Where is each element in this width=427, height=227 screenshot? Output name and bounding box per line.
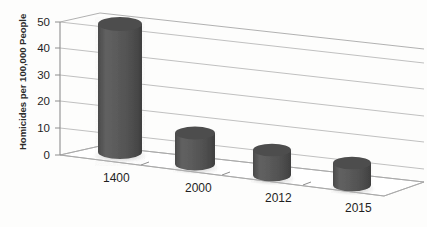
y-tick-label-20: 20 — [37, 95, 50, 107]
y-tick-label-0: 0 — [44, 149, 50, 161]
y-tick-label-50: 50 — [37, 16, 50, 28]
bar-body — [98, 24, 142, 159]
bar-top-ellipse — [98, 17, 142, 31]
bar-1400[interactable] — [92, 17, 148, 163]
y-tick-label-40: 40 — [37, 42, 50, 54]
y-tick-label-30: 30 — [37, 69, 50, 81]
bar-2000[interactable] — [170, 127, 220, 175]
chart-container: 50 40 30 20 10 0 Homicides per 100,000 P… — [0, 0, 427, 227]
bar-top-ellipse — [333, 157, 371, 170]
bar-top-ellipse — [175, 127, 215, 140]
bar-top-ellipse — [253, 144, 291, 157]
category-label-1400: 1400 — [103, 171, 130, 185]
category-label-2015: 2015 — [345, 201, 372, 215]
bar-2015[interactable] — [328, 157, 376, 196]
category-label-2000: 2000 — [185, 181, 212, 195]
category-label-2012: 2012 — [265, 191, 292, 205]
bar-chart-3d: 50 40 30 20 10 0 Homicides per 100,000 P… — [0, 0, 427, 227]
bar-2012[interactable] — [248, 144, 296, 186]
y-tick-label-10: 10 — [37, 122, 50, 134]
y-axis-title: Homicides per 100,000 People — [17, 14, 28, 150]
